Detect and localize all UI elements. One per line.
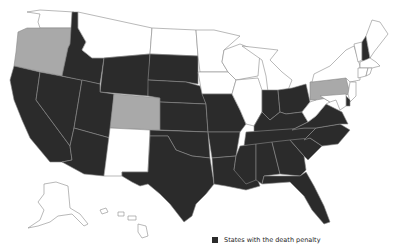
state-FL [262, 172, 330, 224]
state-AR [208, 132, 240, 158]
state-HI [100, 208, 148, 238]
state-SD [148, 54, 198, 84]
state-ME [366, 20, 388, 58]
state-AK [28, 182, 88, 228]
legend-label-death-penalty: States with the death penalty [224, 236, 321, 244]
state-MT [78, 12, 152, 58]
state-NM [104, 128, 150, 176]
legend: States with the death penalty [212, 236, 321, 244]
state-KS [160, 102, 208, 132]
us-map [0, 0, 396, 245]
state-IA [198, 72, 236, 94]
state-NY [312, 46, 360, 82]
legend-swatch-death-penalty [212, 237, 218, 243]
state-ND [150, 28, 198, 56]
state-WY [100, 54, 150, 96]
state-CO [110, 94, 160, 130]
state-WA [27, 10, 74, 28]
